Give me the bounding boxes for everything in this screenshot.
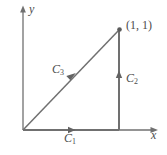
- curve-label-c1: C1: [64, 132, 76, 146]
- curve-label-c3-subscript: 3: [60, 68, 64, 77]
- y-axis-label: y: [29, 3, 34, 15]
- curve-label-c3: C3: [52, 63, 64, 77]
- curve-label-c1-base: C: [64, 131, 72, 145]
- curve-c3-segment: [23, 30, 119, 130]
- figure-canvas: y x (1, 1) C1 C2 C3: [0, 0, 167, 155]
- curve-label-c1-subscript: 1: [72, 137, 76, 146]
- y-axis-arrowhead-icon: [20, 6, 26, 13]
- x-axis-label: x: [151, 129, 156, 141]
- curve-label-c2-subscript: 2: [134, 77, 138, 86]
- point-marker-1-1: [117, 27, 122, 32]
- curve-label-c3-base: C: [52, 62, 60, 76]
- curve-label-c2: C2: [126, 72, 138, 86]
- curve-label-c2-base: C: [126, 71, 134, 85]
- curve-c2-direction-arrow-icon: [116, 71, 122, 79]
- point-label-1-1: (1, 1): [126, 19, 152, 31]
